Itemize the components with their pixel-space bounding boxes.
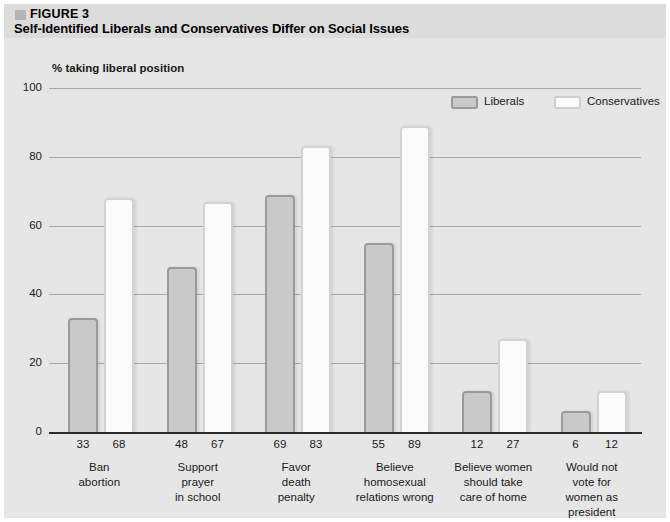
bar-conservatives-4 bbox=[498, 339, 528, 432]
category-label-line: women as bbox=[540, 490, 644, 505]
gridline-100 bbox=[49, 88, 641, 89]
category-label-4: Believe womenshould takecare of home bbox=[441, 460, 545, 505]
y-axis-tick-0: 0 bbox=[8, 425, 42, 437]
category-label-line: Believe women bbox=[441, 460, 545, 475]
y-axis-tick-80: 80 bbox=[8, 150, 42, 162]
bar-liberals-0 bbox=[68, 318, 98, 432]
figure-header: FIGURE 3 Self-Identified Liberals and Co… bbox=[4, 4, 666, 38]
y-axis-tick-60: 60 bbox=[8, 219, 42, 231]
category-label-line: president bbox=[540, 505, 644, 520]
y-axis-tick-40: 40 bbox=[8, 287, 42, 299]
gridline-20 bbox=[49, 363, 641, 364]
category-label-line: homosexual bbox=[343, 475, 447, 490]
bar-conservatives-2 bbox=[301, 146, 331, 432]
category-label-0: Banabortion bbox=[47, 460, 151, 490]
chart-body: % taking liberal position 02040608010033… bbox=[4, 38, 666, 518]
y-axis-tick-20: 20 bbox=[8, 356, 42, 368]
category-label-line: Would not bbox=[540, 460, 644, 475]
gridline-80 bbox=[49, 157, 641, 158]
y-axis-tick-100: 100 bbox=[8, 81, 42, 93]
value-label-conservatives-4: 27 bbox=[491, 438, 535, 450]
category-label-line: prayer bbox=[146, 475, 250, 490]
category-label-line: penalty bbox=[244, 490, 348, 505]
legend-label-conservatives: Conservatives bbox=[587, 95, 660, 107]
legend-swatch-conservatives bbox=[554, 96, 581, 109]
category-label-3: Believehomosexualrelations wrong bbox=[343, 460, 447, 505]
category-label-line: relations wrong bbox=[343, 490, 447, 505]
gridline-60 bbox=[49, 226, 641, 227]
value-label-conservatives-1: 67 bbox=[196, 438, 240, 450]
figure-container: FIGURE 3 Self-Identified Liberals and Co… bbox=[4, 4, 666, 518]
category-label-line: Ban bbox=[47, 460, 151, 475]
gridline-40 bbox=[49, 294, 641, 295]
category-label-1: Supportprayerin school bbox=[146, 460, 250, 505]
category-label-2: Favordeathpenalty bbox=[244, 460, 348, 505]
category-label-line: care of home bbox=[441, 490, 545, 505]
category-label-line: vote for bbox=[540, 475, 644, 490]
value-label-conservatives-3: 89 bbox=[393, 438, 437, 450]
category-label-line: abortion bbox=[47, 475, 151, 490]
category-label-line: Believe bbox=[343, 460, 447, 475]
bar-conservatives-0 bbox=[104, 198, 134, 432]
bar-liberals-5 bbox=[561, 411, 591, 432]
bar-liberals-2 bbox=[265, 195, 295, 432]
x-axis-baseline bbox=[49, 432, 642, 434]
category-label-line: Support bbox=[146, 460, 250, 475]
figure-number: FIGURE 3 bbox=[30, 7, 89, 21]
bar-conservatives-1 bbox=[203, 202, 233, 432]
category-label-line: should take bbox=[441, 475, 545, 490]
bar-liberals-3 bbox=[364, 243, 394, 432]
figure-marker-icon bbox=[15, 10, 26, 20]
bar-liberals-4 bbox=[462, 391, 492, 432]
legend-swatch-liberals bbox=[451, 96, 478, 109]
bar-conservatives-3 bbox=[400, 126, 430, 432]
category-label-line: Favor bbox=[244, 460, 348, 475]
value-label-conservatives-5: 12 bbox=[590, 438, 634, 450]
legend-label-liberals: Liberals bbox=[484, 95, 524, 107]
figure-title: Self-Identified Liberals and Conservativ… bbox=[14, 21, 409, 36]
bar-conservatives-5 bbox=[597, 391, 627, 432]
plot-area: 0204060801003368Banabortion4867Supportpr… bbox=[4, 38, 666, 518]
category-label-5: Would notvote forwomen aspresident bbox=[540, 460, 644, 520]
category-label-line: in school bbox=[146, 490, 250, 505]
value-label-conservatives-0: 68 bbox=[97, 438, 141, 450]
category-label-line: death bbox=[244, 475, 348, 490]
value-label-conservatives-2: 83 bbox=[294, 438, 338, 450]
bar-liberals-1 bbox=[167, 267, 197, 432]
